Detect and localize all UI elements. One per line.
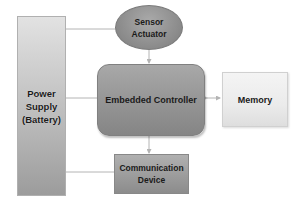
memory-label: Memory bbox=[238, 95, 273, 105]
sensor-label-2: Actuator bbox=[132, 28, 167, 40]
power-supply-block: Power Supply (Battery) bbox=[17, 16, 66, 196]
communication-device-block: Communication Device bbox=[114, 154, 189, 194]
comm-label-2: Device bbox=[119, 174, 183, 186]
comm-label-1: Communication bbox=[119, 162, 183, 174]
sensor-label-1: Sensor bbox=[132, 16, 167, 28]
power-supply-label-1: Power bbox=[22, 87, 61, 100]
memory-block: Memory bbox=[222, 72, 288, 127]
embedded-controller-block: Embedded Controller bbox=[97, 64, 205, 136]
power-supply-label-3: (Battery) bbox=[22, 113, 61, 126]
sensor-actuator-node: Sensor Actuator bbox=[115, 5, 183, 50]
controller-label: Embedded Controller bbox=[105, 95, 197, 105]
power-supply-label-2: Supply bbox=[22, 100, 61, 113]
